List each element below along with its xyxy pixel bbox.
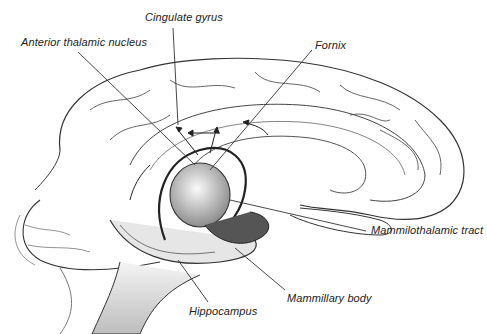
cerebrum-outline — [60, 58, 464, 219]
label-mammillary-body: Mammillary body — [287, 292, 372, 304]
brain-illustration — [0, 0, 487, 334]
brain-diagram: Cingulate gyrus Anterior thalamic nucleu… — [0, 0, 487, 334]
label-mammilothalamic-tract: Mammilothalamic tract — [371, 224, 483, 236]
thalamus — [170, 163, 230, 227]
label-anterior-thalamic-nucleus: Anterior thalamic nucleus — [21, 36, 147, 48]
label-hippocampus: Hippocampus — [189, 305, 257, 317]
brainstem — [92, 262, 200, 334]
label-cingulate-gyrus: Cingulate gyrus — [145, 11, 223, 23]
label-fornix: Fornix — [315, 39, 346, 51]
